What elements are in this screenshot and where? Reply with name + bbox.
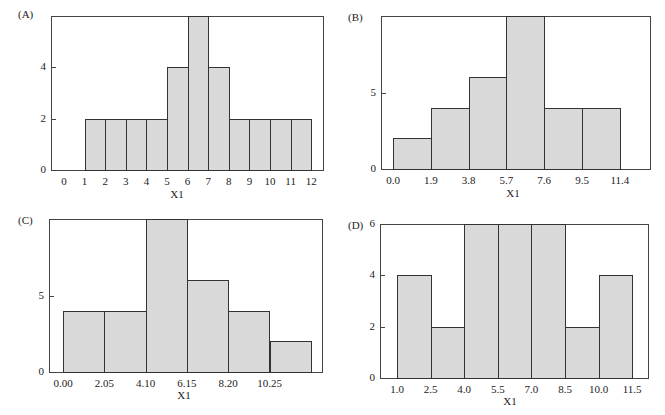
histogram-bar <box>63 311 105 373</box>
histogram-bar <box>506 16 545 170</box>
panel-label: (C) <box>18 214 33 226</box>
y-tick-mark <box>381 169 386 170</box>
x-tick-label: 5.7 <box>491 174 521 186</box>
x-axis-label: X1 <box>493 187 533 199</box>
histogram-bar <box>126 119 148 171</box>
histogram-bar <box>498 224 533 379</box>
histogram-bar <box>270 119 292 171</box>
histogram-bar <box>431 327 466 379</box>
histogram-bar <box>599 275 634 379</box>
x-tick-label: 0.0 <box>378 174 408 186</box>
x-tick-label: 9.5 <box>567 174 597 186</box>
y-tick-mark <box>381 93 386 94</box>
histogram-bar <box>104 311 146 373</box>
histogram-bar <box>531 224 566 379</box>
histogram-bar <box>270 341 312 373</box>
x-tick-label: 1.9 <box>416 174 446 186</box>
histogram-bar <box>393 138 432 170</box>
x-tick-label: 11.5 <box>617 383 647 395</box>
y-tick-label: 0 <box>355 371 375 383</box>
histogram-bar <box>249 119 271 171</box>
histogram-bar <box>469 77 508 170</box>
x-tick-label: 0.00 <box>48 377 78 389</box>
x-tick-label: 1.0 <box>382 383 412 395</box>
y-tick-label: 0 <box>26 163 46 175</box>
x-tick-label: 6.15 <box>172 377 202 389</box>
y-tick-mark <box>380 224 385 225</box>
x-axis-label: X1 <box>164 389 204 401</box>
y-tick-mark <box>380 327 385 328</box>
histogram-bar <box>582 108 621 170</box>
histogram-bar <box>146 219 188 373</box>
x-tick-label: 2.5 <box>416 383 446 395</box>
x-tick-label: 12 <box>296 175 326 187</box>
y-tick-label: 0 <box>356 162 376 174</box>
x-tick-label: 10.25 <box>255 377 285 389</box>
histogram-bar <box>397 275 432 379</box>
y-tick-mark <box>380 275 385 276</box>
x-tick-label: 2.05 <box>89 377 119 389</box>
y-tick-mark <box>49 372 54 373</box>
histogram-bar <box>85 119 107 171</box>
panel-label: (A) <box>18 8 33 20</box>
y-tick-label: 4 <box>355 268 375 280</box>
x-tick-label: 8.20 <box>213 377 243 389</box>
histogram-bar <box>208 67 230 171</box>
histogram-bar <box>291 119 313 171</box>
x-tick-label: 5.5 <box>483 383 513 395</box>
x-tick-label: 4.10 <box>131 377 161 389</box>
x-tick-label: 8.5 <box>550 383 580 395</box>
y-tick-mark <box>380 378 385 379</box>
x-tick-label: 4.0 <box>449 383 479 395</box>
x-tick-label: 7.0 <box>516 383 546 395</box>
y-tick-label: 2 <box>355 320 375 332</box>
histogram-bar <box>544 108 583 170</box>
histogram-bar <box>464 224 499 379</box>
histogram-bar <box>565 327 600 379</box>
histogram-bar <box>229 119 251 171</box>
panel-label: (B) <box>348 11 363 23</box>
y-tick-mark <box>51 67 56 68</box>
x-tick-label: 11.4 <box>605 174 635 186</box>
histogram-bar <box>188 16 210 171</box>
histogram-bar <box>187 280 229 373</box>
x-axis-label: X1 <box>157 188 197 200</box>
histogram-bar <box>228 311 270 373</box>
y-tick-label: 6 <box>355 217 375 229</box>
y-tick-label: 4 <box>26 60 46 72</box>
x-tick-label: 3.8 <box>454 174 484 186</box>
histogram-bar <box>431 108 470 170</box>
x-axis-label: X1 <box>490 395 530 407</box>
x-tick-label: 10.0 <box>584 383 614 395</box>
x-tick-label: 7.6 <box>529 174 559 186</box>
histogram-bar <box>105 119 127 171</box>
y-tick-label: 0 <box>24 365 44 377</box>
y-tick-mark <box>51 119 56 120</box>
histogram-bar <box>167 67 189 171</box>
y-tick-mark <box>49 296 54 297</box>
y-tick-label: 2 <box>26 112 46 124</box>
y-tick-label: 5 <box>24 289 44 301</box>
y-tick-mark <box>51 170 56 171</box>
y-tick-label: 5 <box>356 86 376 98</box>
histogram-bar <box>146 119 168 171</box>
